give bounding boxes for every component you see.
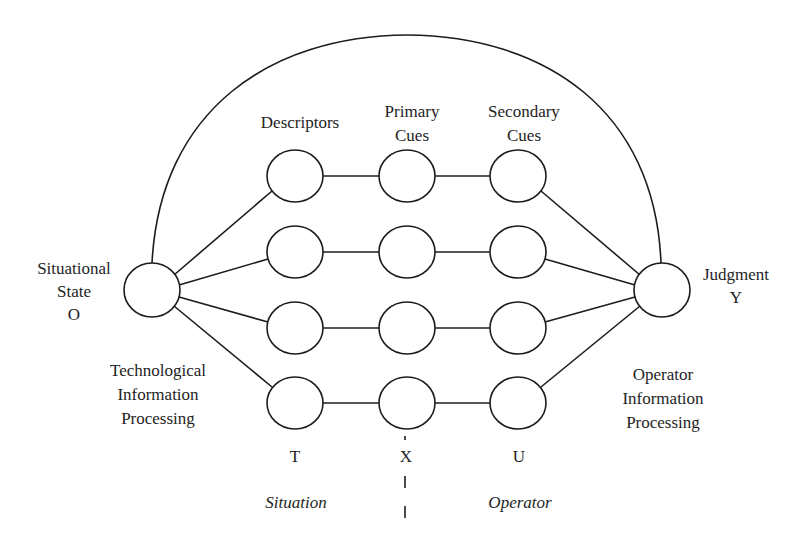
technological-processing-line3: Processing	[121, 409, 195, 428]
primary-cue-nodes	[379, 150, 435, 429]
descriptors-header: Descriptors	[261, 113, 339, 132]
situational-state-label-line3: O	[68, 305, 80, 324]
technological-processing-line2: Information	[117, 385, 199, 404]
lens-model-diagram: Descriptors Primary Cues Secondary Cues …	[0, 0, 802, 550]
situational-state-label-line2: State	[57, 282, 91, 301]
judgment-node	[634, 263, 690, 317]
descriptor-nodes	[267, 150, 323, 429]
secondary-cues-header-line2: Cues	[507, 126, 541, 145]
variable-x: X	[400, 447, 412, 466]
situational-state-label-line1: Situational	[37, 259, 111, 278]
right-fan-links	[541, 191, 640, 387]
variable-u: U	[513, 447, 525, 466]
situational-state-node	[124, 263, 180, 317]
primary-cues-header-line1: Primary	[385, 102, 440, 121]
secondary-cue-nodes	[490, 150, 546, 429]
operator-label: Operator	[488, 493, 552, 512]
row-links	[323, 176, 490, 403]
operator-processing-line3: Processing	[626, 413, 700, 432]
technological-processing-line1: Technological	[110, 361, 206, 380]
secondary-cues-header-line1: Secondary	[488, 102, 560, 121]
judgment-label-line1: Judgment	[703, 265, 769, 284]
judgment-label-line2: Y	[730, 288, 742, 307]
operator-processing-line2: Information	[622, 389, 704, 408]
situation-label: Situation	[265, 493, 326, 512]
variable-t: T	[290, 447, 301, 466]
left-fan-links	[174, 191, 272, 387]
operator-processing-line1: Operator	[633, 365, 694, 384]
primary-cues-header-line2: Cues	[395, 126, 429, 145]
